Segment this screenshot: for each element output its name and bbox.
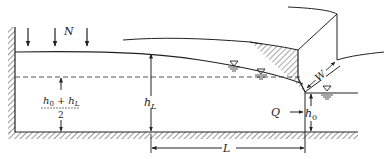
recharge-arrows [28, 28, 87, 46]
upstream-head-label: hL [144, 96, 156, 111]
aquifer-drain-diagram: N W [0, 0, 384, 159]
ground-surface-line [123, 38, 262, 44]
discharge-label: Q [271, 106, 280, 119]
average-head-denominator: 2 [58, 110, 64, 120]
length-label: L [222, 142, 230, 155]
recharge-label: N [63, 25, 74, 38]
downstream-head-label: h0 [305, 107, 317, 122]
average-head-numerator: h0+hL [43, 95, 80, 108]
water-table-symbol-icon [228, 61, 240, 71]
left-impermeable-wall [8, 27, 15, 133]
